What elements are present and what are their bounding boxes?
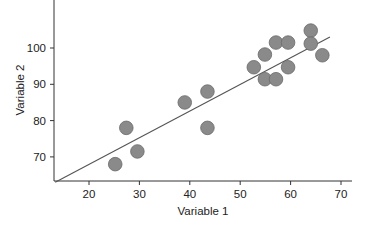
data-point [258, 48, 272, 62]
x-tick-label: 20 [83, 188, 96, 200]
data-point [247, 60, 261, 74]
x-ticks: 203040506070 [83, 181, 348, 200]
data-point [281, 36, 295, 50]
x-tick-label: 60 [284, 188, 297, 200]
data-point [316, 48, 330, 62]
x-tick-label: 30 [133, 188, 146, 200]
data-point [304, 37, 318, 51]
y-tick-label: 80 [33, 115, 46, 127]
data-point [304, 24, 318, 38]
data-point [178, 96, 192, 110]
y-axis-label: Variable 2 [14, 65, 26, 116]
y-tick-label: 100 [27, 42, 46, 54]
data-point [119, 121, 133, 135]
x-tick-label: 50 [234, 188, 247, 200]
data-point [201, 121, 215, 135]
data-point [269, 72, 283, 86]
data-point [108, 157, 122, 171]
regression-line [55, 37, 330, 182]
data-point [131, 145, 145, 159]
data-point [269, 36, 283, 50]
y-ticks: 708090100 [27, 42, 54, 163]
x-tick-label: 40 [183, 188, 196, 200]
data-points [108, 24, 329, 171]
data-point [281, 60, 295, 74]
x-axis-label: Variable 1 [178, 205, 229, 217]
x-tick-label: 70 [335, 188, 348, 200]
scatter-chart: 203040506070 708090100 Variable 1 Variab… [0, 0, 372, 230]
y-tick-label: 90 [33, 78, 46, 90]
data-point [201, 85, 215, 99]
y-tick-label: 70 [33, 151, 46, 163]
